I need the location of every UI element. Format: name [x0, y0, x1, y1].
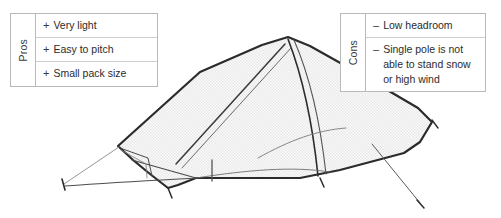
pros-item-text: Easy to pitch	[53, 42, 151, 57]
minus-icon: –	[373, 18, 379, 33]
cons-item-text: Low headroom	[383, 18, 479, 33]
cons-table: Cons – Low headroom – Single pole is not…	[340, 13, 486, 92]
pros-item-text: Small pack size	[53, 66, 151, 81]
plus-icon: +	[43, 42, 49, 57]
stake-left-icon	[62, 179, 65, 190]
stake-right-corner	[432, 120, 438, 128]
minus-icon: –	[373, 42, 379, 57]
pros-row: + Very light	[36, 14, 157, 38]
cons-label: Cons	[347, 40, 359, 65]
guyline-left	[62, 147, 119, 190]
pros-item-text: Very light	[53, 18, 151, 33]
cons-label-cell: Cons	[341, 14, 366, 91]
stake-right-icon	[417, 200, 424, 208]
pros-table: Pros + Very light + Easy to pitch + Smal…	[10, 13, 158, 87]
pros-label: Pros	[17, 39, 29, 61]
stake-rear-foot-icon	[320, 178, 324, 187]
stake-front-foot-icon	[168, 188, 172, 198]
cons-rows: – Low headroom – Single pole is not able…	[366, 14, 485, 91]
stake-front-foot	[168, 188, 172, 198]
plus-icon: +	[43, 18, 49, 33]
plus-icon: +	[43, 66, 49, 81]
cons-row: – Single pole is not able to stand snow …	[366, 38, 485, 91]
guyline-left-cord	[64, 147, 119, 184]
pros-rows: + Very light + Easy to pitch + Small pac…	[36, 14, 157, 86]
cons-row: – Low headroom	[366, 14, 485, 38]
stake-rear-foot	[320, 178, 324, 187]
cons-item-text: Single pole is not able to stand snow or…	[383, 42, 479, 87]
pros-row: + Easy to pitch	[36, 38, 157, 62]
figure-canvas: Pros + Very light + Easy to pitch + Smal…	[0, 0, 501, 218]
stake-right-corner-icon	[432, 120, 438, 128]
pros-label-cell: Pros	[11, 14, 36, 86]
pros-row: + Small pack size	[36, 62, 157, 86]
